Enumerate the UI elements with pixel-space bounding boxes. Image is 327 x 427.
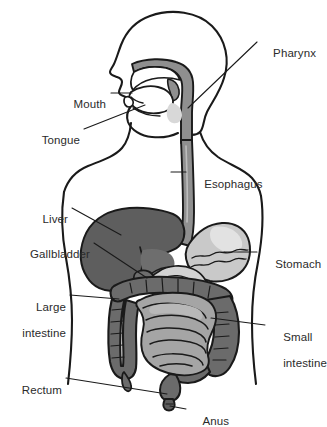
label-anus: Anus [190,402,236,427]
label-mouth-text: Mouth [74,98,106,110]
rectum-anus-group [160,374,180,411]
small-intestine-group [136,293,216,375]
label-anus-text: Anus [203,415,230,427]
anus-organ [164,399,175,411]
torso-right-outline [252,196,262,384]
label-small-intestine-text2: intestine [283,357,327,369]
label-rectum: Rectum [6,371,62,410]
label-esophagus-text: Esophagus [204,178,262,190]
label-small-intestine: Small intestine [270,318,320,383]
face-profile-outline [110,16,150,97]
label-stomach: Stomach [262,245,320,284]
label-tongue-text: Tongue [42,134,80,146]
label-large-intestine: Large intestine [2,288,66,353]
mouth-opening [124,97,133,107]
leader-line-rectum [66,378,167,394]
label-rectum-text: Rectum [22,384,62,396]
label-tongue: Tongue [22,121,80,160]
label-large-intestine-text: Large [36,301,66,313]
rectum-organ [160,374,180,401]
label-mouth: Mouth [50,85,106,124]
label-gallbladder-text: Gallbladder [30,248,90,260]
label-small-intestine-text: Small [283,331,312,343]
label-liver-text: Liver [43,213,68,225]
label-large-intestine-text2: intestine [22,327,66,339]
label-pharynx-text: Pharynx [273,47,316,59]
label-esophagus: Esophagus [191,165,267,204]
label-stomach-text: Stomach [275,258,321,270]
label-gallbladder: Gallbladder [4,235,90,274]
label-liver: Liver [14,200,68,239]
label-pharynx: Pharynx [248,34,316,73]
